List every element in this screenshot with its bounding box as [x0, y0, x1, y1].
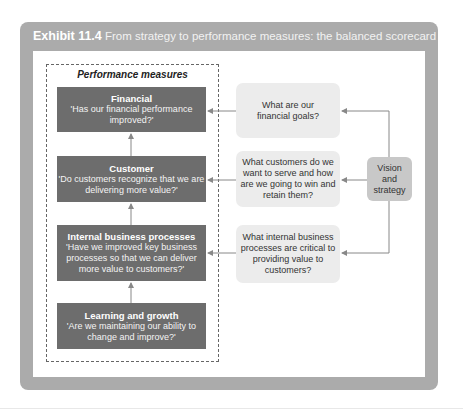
box-question: 'Has our financial performance improved?…	[57, 104, 206, 126]
financial-box: Financial 'Has our financial performance…	[57, 87, 206, 132]
vision-text: Vision and strategy	[371, 163, 408, 196]
vision-strategy-box: Vision and strategy	[367, 157, 412, 201]
question-text: What customers do we want to serve and h…	[240, 157, 336, 201]
internal-processes-box: Internal business processes 'Have we imp…	[57, 225, 206, 281]
box-question: 'Do customers recognize that we are deli…	[57, 174, 206, 196]
exhibit-label: Exhibit 11.4	[33, 29, 102, 43]
question-text: What are our financial goals?	[250, 100, 326, 122]
exhibit-caption: From strategy to performance measures: t…	[102, 30, 436, 42]
learning-growth-box: Learning and growth 'Are we maintaining …	[57, 303, 206, 349]
exhibit-title: Exhibit 11.4 From strategy to performanc…	[33, 29, 436, 43]
question-text: What internal business processes are cri…	[240, 232, 336, 276]
box-heading: Internal business processes	[57, 231, 206, 242]
box-heading: Financial	[57, 93, 206, 104]
box-heading: Customer	[57, 163, 206, 174]
customer-box: Customer 'Do customers recognize that we…	[57, 156, 206, 202]
page-divider	[0, 408, 463, 409]
performance-measures-title: Performance measures	[46, 69, 219, 80]
customer-question: What customers do we want to serve and h…	[236, 151, 340, 207]
box-question: 'Have we improved key business processes…	[57, 242, 206, 275]
internal-processes-question: What internal business processes are cri…	[236, 225, 340, 283]
box-heading: Learning and growth	[57, 310, 206, 321]
financial-goals-question: What are our financial goals?	[236, 83, 340, 138]
box-question: 'Are we maintaining our ability to chang…	[57, 321, 206, 343]
